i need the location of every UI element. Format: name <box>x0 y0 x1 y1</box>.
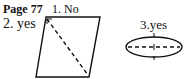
answer-key-snippet: Page 77 1. No 2. yes 3.yes <box>0 0 189 79</box>
dashed-diagonal <box>47 19 88 75</box>
ellipse-figure <box>126 33 182 60</box>
parallelogram-figure <box>36 17 100 77</box>
figures <box>0 0 189 79</box>
